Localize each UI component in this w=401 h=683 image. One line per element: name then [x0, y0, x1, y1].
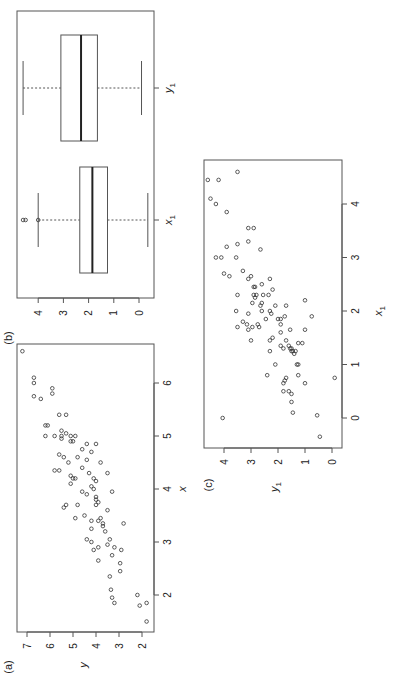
panel-b-boxplot: 01234 x1y1 (b) [2, 11, 177, 345]
data-point [260, 282, 264, 286]
data-point [296, 341, 300, 345]
data-point [222, 272, 226, 276]
panel-c-label: (c) [202, 479, 214, 492]
tick-label: 7 [22, 643, 33, 649]
data-point [271, 288, 275, 292]
data-point [76, 455, 80, 459]
tick-label: 2 [273, 459, 284, 465]
tick-label: 4 [33, 310, 44, 316]
data-point [120, 548, 124, 552]
panel-b-value-axis: 01234 [33, 298, 145, 316]
data-point [247, 312, 251, 316]
data-point [99, 461, 103, 465]
data-point [214, 202, 218, 206]
data-point [106, 543, 110, 547]
panel-a-scatter: 234567 23456 (a) y x [2, 344, 188, 674]
data-point [252, 226, 256, 230]
data-point [303, 328, 307, 332]
data-point [53, 469, 57, 473]
data-point [118, 561, 122, 565]
panel-c-frame [204, 160, 342, 448]
tick-label: 1 [300, 459, 311, 465]
data-point [318, 435, 322, 439]
data-point [90, 450, 94, 454]
category-label: x1 [162, 214, 177, 226]
data-point [32, 376, 36, 380]
data-point [76, 503, 80, 507]
data-point [217, 178, 221, 182]
data-point [247, 240, 251, 244]
tick-label: 0 [327, 459, 338, 465]
data-point [74, 434, 78, 438]
data-point [247, 328, 251, 332]
data-point [241, 269, 245, 273]
tick-label: 1 [108, 310, 119, 316]
data-point [268, 349, 272, 353]
data-point [80, 466, 84, 470]
panel-b-label: (b) [2, 331, 14, 344]
data-point [94, 503, 98, 507]
data-point [260, 309, 264, 313]
panel-c-x-axis: 01234 [342, 201, 361, 421]
data-point [225, 245, 229, 249]
data-point [228, 274, 232, 278]
data-point [274, 363, 278, 367]
data-point [290, 392, 294, 396]
data-point [21, 349, 25, 353]
data-point [69, 434, 73, 438]
data-point [85, 493, 89, 497]
data-point [259, 248, 263, 252]
data-point [97, 559, 101, 563]
data-point [110, 553, 114, 557]
data-point [69, 482, 73, 486]
data-point [315, 414, 319, 418]
data-point [60, 429, 64, 433]
data-point [103, 530, 107, 534]
data-point [291, 411, 295, 415]
tick-label: 0 [350, 415, 361, 421]
data-point [85, 442, 89, 446]
data-point [109, 588, 113, 592]
tick-label: 0 [134, 310, 145, 316]
data-point [44, 434, 48, 438]
tick-label: 3 [350, 254, 361, 260]
data-point [268, 339, 272, 343]
data-point [225, 210, 229, 214]
data-point [236, 325, 240, 329]
figure: 01234 x1y1 (b) 234567 23456 (a) y x 0123… [0, 0, 401, 683]
box-x1 [21, 167, 148, 273]
panel-c-y-axis: 01234 [219, 448, 338, 465]
panel-c-x-label: x1 [372, 305, 387, 317]
data-point [85, 538, 89, 542]
data-point [51, 392, 55, 396]
box-y1 [23, 35, 141, 141]
data-point [90, 540, 94, 544]
data-point [51, 387, 55, 391]
panel-a-frame [17, 344, 154, 632]
data-point [97, 546, 101, 550]
data-point [62, 455, 66, 459]
data-point [214, 256, 218, 260]
tick-label: 6 [162, 380, 173, 386]
panel-a-x-axis: 23456 [154, 380, 173, 598]
data-point [247, 226, 251, 230]
data-point [247, 277, 251, 281]
tick-label: 5 [68, 643, 79, 649]
tick-label: 2 [162, 592, 173, 598]
data-point [106, 471, 110, 475]
data-point [101, 524, 105, 528]
panel-a-label: (a) [2, 660, 14, 673]
data-point [251, 301, 255, 305]
data-point [106, 508, 110, 512]
tick-label: 5 [162, 433, 173, 439]
data-point [261, 293, 265, 297]
data-point [108, 538, 112, 542]
tick-label: 3 [58, 310, 69, 316]
data-point [57, 453, 61, 457]
data-point [39, 397, 43, 401]
data-point [44, 424, 48, 428]
data-point [90, 527, 94, 531]
data-point [83, 514, 87, 518]
data-point [92, 487, 96, 491]
data-point [333, 376, 337, 380]
